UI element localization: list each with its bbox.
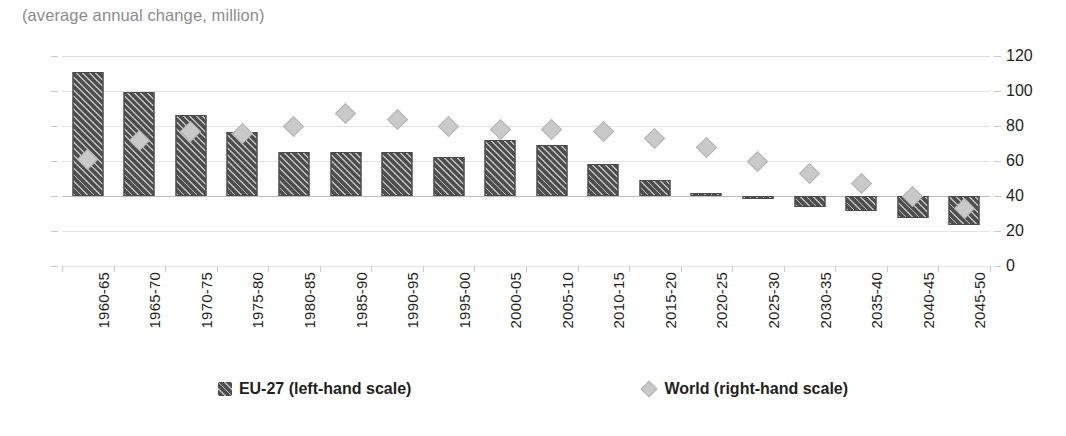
x-tickmark bbox=[62, 266, 63, 272]
x-axis-label: 2010-15 bbox=[610, 272, 627, 328]
x-tickmark bbox=[629, 266, 630, 272]
plot-area: 41203100280160040-120-20 bbox=[62, 56, 990, 266]
bar-eu27 bbox=[691, 193, 722, 197]
x-axis-label: 1965-70 bbox=[146, 272, 163, 328]
bar-eu27 bbox=[536, 145, 567, 196]
x-tickmark bbox=[526, 266, 527, 272]
marker-world bbox=[541, 119, 562, 140]
x-axis-label: 1995-00 bbox=[456, 272, 473, 328]
axis-tickmark bbox=[994, 91, 1001, 92]
y-tick-right: 60 bbox=[1006, 153, 1066, 169]
marker-world bbox=[438, 115, 459, 136]
marker-world bbox=[644, 128, 665, 149]
bar-eu27 bbox=[330, 152, 361, 196]
y-tick-right: 20 bbox=[1006, 223, 1066, 239]
y-tick-right: 100 bbox=[1006, 83, 1066, 99]
hatched-bar-swatch bbox=[218, 382, 232, 396]
axis-tickmark bbox=[51, 91, 58, 92]
legend-item: World (right-hand scale) bbox=[641, 380, 848, 398]
axis-tickmark bbox=[51, 231, 58, 232]
chart-category-group bbox=[681, 56, 733, 266]
axis-tickmark bbox=[51, 161, 58, 162]
marker-world bbox=[696, 136, 717, 157]
axis-tickmark bbox=[994, 56, 1001, 57]
x-tickmark bbox=[423, 266, 424, 272]
chart-category-group bbox=[62, 56, 114, 266]
y-tick-right: 40 bbox=[1006, 188, 1066, 204]
x-tickmark bbox=[268, 266, 269, 272]
y-tick-right: 80 bbox=[1006, 118, 1066, 134]
y-tick-right: 120 bbox=[1006, 48, 1066, 64]
bar-eu27 bbox=[588, 164, 619, 196]
axis-tickmark bbox=[994, 231, 1001, 232]
chart-category-group bbox=[268, 56, 320, 266]
bar-eu27 bbox=[742, 196, 773, 199]
chart-category-group bbox=[474, 56, 526, 266]
x-tickmark bbox=[474, 266, 475, 272]
x-tickmark bbox=[835, 266, 836, 272]
axis-tickmark bbox=[51, 196, 58, 197]
legend-item: EU-27 (left-hand scale) bbox=[218, 380, 411, 398]
chart-category-group bbox=[114, 56, 166, 266]
x-tickmark bbox=[681, 266, 682, 272]
y-tick-right: 0 bbox=[1006, 258, 1066, 274]
x-axis-label: 2000-05 bbox=[507, 272, 524, 328]
x-axis-label: 2005-10 bbox=[559, 272, 576, 328]
x-tickmark bbox=[165, 266, 166, 272]
chart-category-group bbox=[732, 56, 784, 266]
marker-world bbox=[283, 115, 304, 136]
bar-eu27 bbox=[433, 157, 464, 196]
marker-world bbox=[386, 108, 407, 129]
chart-category-group bbox=[526, 56, 578, 266]
chart-category-group bbox=[784, 56, 836, 266]
axis-tickmark bbox=[51, 266, 58, 267]
marker-world bbox=[490, 119, 511, 140]
x-axis-label: 2030-35 bbox=[817, 272, 834, 328]
bar-eu27 bbox=[846, 196, 877, 211]
x-tickmark bbox=[887, 266, 888, 272]
axis-tickmark bbox=[51, 126, 58, 127]
x-axis-label: 2035-40 bbox=[868, 272, 885, 328]
x-tickmark bbox=[990, 266, 991, 272]
x-tickmark bbox=[217, 266, 218, 272]
axis-tickmark bbox=[994, 266, 1001, 267]
chart-category-group bbox=[320, 56, 372, 266]
bar-eu27 bbox=[639, 180, 670, 196]
bar-eu27 bbox=[72, 72, 103, 196]
marker-world bbox=[799, 163, 820, 184]
marker-world bbox=[593, 121, 614, 142]
chart-category-group bbox=[578, 56, 630, 266]
marker-world bbox=[850, 173, 871, 194]
x-tickmark bbox=[784, 266, 785, 272]
chart-legend: EU-27 (left-hand scale)World (right-hand… bbox=[0, 380, 1066, 398]
marker-world bbox=[747, 150, 768, 171]
legend-label: EU-27 (left-hand scale) bbox=[239, 380, 411, 398]
bar-eu27 bbox=[278, 152, 309, 196]
chart-category-group bbox=[938, 56, 990, 266]
chart-category-group bbox=[629, 56, 681, 266]
x-tickmark bbox=[578, 266, 579, 272]
chart-category-group bbox=[371, 56, 423, 266]
bar-eu27 bbox=[794, 196, 825, 207]
x-axis-label: 1985-90 bbox=[353, 272, 370, 328]
x-axis-label: 2045-50 bbox=[971, 272, 988, 328]
x-axis-label: 2025-30 bbox=[765, 272, 782, 328]
axis-tickmark bbox=[994, 126, 1001, 127]
chart-category-group bbox=[887, 56, 939, 266]
axis-tickmark bbox=[994, 161, 1001, 162]
marker-world bbox=[335, 103, 356, 124]
x-axis-label: 1960-65 bbox=[95, 272, 112, 328]
bar-eu27 bbox=[485, 140, 516, 196]
x-tickmark bbox=[114, 266, 115, 272]
x-axis-label: 2015-20 bbox=[662, 272, 679, 328]
x-axis-label: 2020-25 bbox=[713, 272, 730, 328]
x-axis-label: 1990-95 bbox=[404, 272, 421, 328]
x-axis-label: 1975-80 bbox=[249, 272, 266, 328]
chart-category-group bbox=[217, 56, 269, 266]
bar-eu27 bbox=[382, 152, 413, 196]
x-axis-label: 1980-85 bbox=[301, 272, 318, 328]
diamond-swatch bbox=[641, 381, 658, 398]
x-axis-label: 1970-75 bbox=[198, 272, 215, 328]
chart-category-group bbox=[835, 56, 887, 266]
chart-category-group bbox=[423, 56, 475, 266]
